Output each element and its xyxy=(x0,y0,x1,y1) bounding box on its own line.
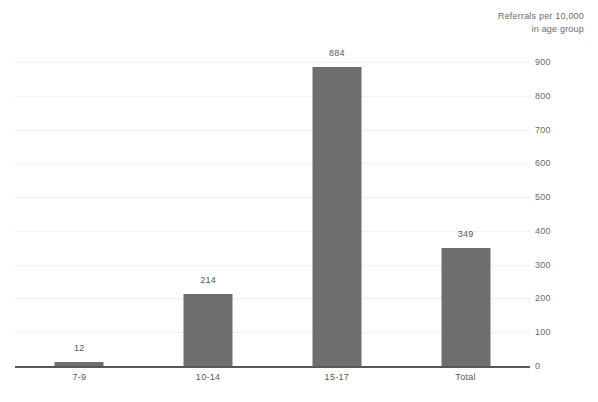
bar-value-label: 214 xyxy=(200,275,216,285)
bars-layer: 12214884349 xyxy=(15,62,530,366)
bar-group: 349 xyxy=(401,62,530,366)
y-axis-tick-label: 800 xyxy=(535,91,581,101)
bar-group: 214 xyxy=(144,62,273,366)
x-axis-category-label: 10-14 xyxy=(196,372,221,382)
y-axis-tick-label: 300 xyxy=(535,260,581,270)
bar[interactable] xyxy=(184,294,233,366)
bar-value-label: 12 xyxy=(74,343,85,353)
y-axis-tick-label: 100 xyxy=(535,327,581,337)
x-axis-category-label: 7-9 xyxy=(72,372,86,382)
x-axis-category-label: Total xyxy=(455,372,476,382)
y-axis-tick-label: 900 xyxy=(535,57,581,67)
bar[interactable] xyxy=(55,362,104,366)
bar-value-label: 349 xyxy=(458,229,474,239)
x-axis-categories: 7-910-1415-17Total xyxy=(15,372,530,390)
y-axis-tick-label: 400 xyxy=(535,226,581,236)
bar[interactable] xyxy=(441,248,490,366)
bar-value-label: 884 xyxy=(329,48,345,58)
bar-chart: Referrals per 10,000 in age group 010020… xyxy=(0,0,598,402)
y-axis-tick-label: 700 xyxy=(535,125,581,135)
y-axis-tick-label: 200 xyxy=(535,293,581,303)
bar-group: 884 xyxy=(273,62,402,366)
y-axis-tick-label: 600 xyxy=(535,158,581,168)
bar-group: 12 xyxy=(15,62,144,366)
x-axis-category-label: 15-17 xyxy=(325,372,350,382)
axis-baseline xyxy=(15,366,530,368)
y-axis-tick-label: 500 xyxy=(535,192,581,202)
y-axis-tick-label: 0 xyxy=(535,361,581,371)
bar[interactable] xyxy=(312,67,361,366)
y-axis-caption: Referrals per 10,000 in age group xyxy=(384,10,584,36)
